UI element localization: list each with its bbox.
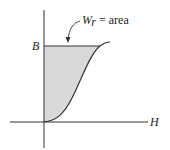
- b-axis-label: B: [32, 39, 40, 53]
- energy-annotation: Wr = area: [82, 13, 129, 29]
- h-axis-label: H: [149, 115, 160, 129]
- arrow-head-icon: [66, 37, 71, 43]
- bh-diagram: B H Wr = area: [0, 0, 170, 150]
